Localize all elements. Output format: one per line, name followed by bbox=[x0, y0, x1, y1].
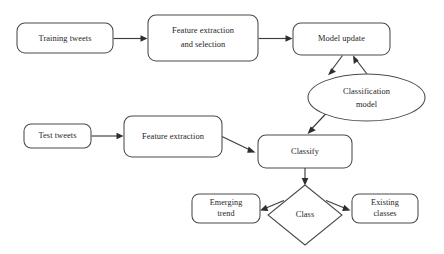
model-update-label: Model update bbox=[318, 34, 365, 43]
node-emerging-trend[interactable]: Emerging trend bbox=[192, 194, 260, 223]
feature-extraction-label: Feature extraction bbox=[142, 132, 205, 141]
edge-test-to-feature bbox=[92, 133, 124, 140]
emerging-trend-label-line1: Emerging bbox=[210, 198, 243, 207]
node-classify[interactable]: Classify bbox=[258, 135, 352, 168]
flowchart-svg: Training tweets Feature extraction and s… bbox=[0, 0, 444, 254]
classification-model-label-line1: Classification bbox=[343, 87, 391, 96]
feature-extraction-selection-box[interactable] bbox=[148, 15, 258, 61]
edge-classification-to-classify bbox=[308, 112, 328, 134]
node-classification-model[interactable]: Classification model bbox=[308, 74, 425, 121]
feature-extraction-selection-label-line2: and selection bbox=[181, 40, 226, 49]
edge-feature-to-classify bbox=[222, 137, 256, 153]
training-tweets-label: Training tweets bbox=[39, 34, 92, 43]
feature-extraction-selection-label-line1: Feature extraction bbox=[172, 26, 235, 35]
node-model-update[interactable]: Model update bbox=[293, 23, 390, 55]
node-training-tweets[interactable]: Training tweets bbox=[17, 23, 113, 53]
node-test-tweets[interactable]: Test tweets bbox=[24, 124, 91, 148]
flowchart-canvas: Training tweets Feature extraction and s… bbox=[0, 0, 444, 254]
edge-model-to-classification bbox=[328, 56, 343, 76]
classification-model-ellipse[interactable] bbox=[308, 74, 425, 121]
edge-classify-to-class bbox=[302, 168, 309, 186]
emerging-trend-label-line2: trend bbox=[217, 209, 234, 218]
nodes-layer: Training tweets Feature extraction and s… bbox=[17, 15, 425, 245]
existing-classes-label-line1: Existing bbox=[371, 198, 399, 207]
edge-training-to-feature bbox=[114, 35, 148, 42]
node-class[interactable]: Class bbox=[268, 185, 342, 245]
edge-feature-to-model bbox=[259, 35, 293, 42]
node-feature-extraction[interactable]: Feature extraction bbox=[124, 116, 222, 157]
existing-classes-label-line2: classes bbox=[373, 209, 396, 218]
node-feature-extraction-selection[interactable]: Feature extraction and selection bbox=[148, 15, 258, 61]
test-tweets-label: Test tweets bbox=[39, 131, 77, 140]
node-existing-classes[interactable]: Existing classes bbox=[352, 194, 418, 223]
edge-classification-to-model bbox=[353, 55, 367, 74]
classification-model-label-line2: model bbox=[356, 100, 378, 109]
class-label: Class bbox=[296, 210, 314, 219]
classify-label: Classify bbox=[291, 147, 320, 156]
